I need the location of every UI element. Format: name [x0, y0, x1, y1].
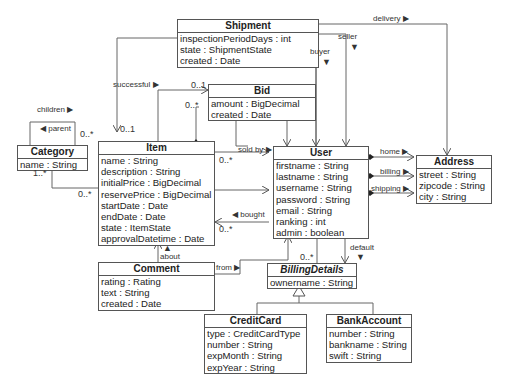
class-name: Bid [209, 85, 315, 98]
attribute: approvalDatetime : Date [99, 233, 214, 244]
mult-bid-item: 0..* [185, 100, 199, 110]
class-name: BankAccount [327, 315, 411, 328]
class-name: User [274, 147, 368, 160]
mult-bid-successful: 0..1 [191, 80, 206, 90]
mult-shipment-item: 0..1 [120, 124, 135, 134]
attribute: bankname : String [327, 339, 411, 350]
class-bid[interactable]: Bid amount : BigDecimal created : Date [208, 84, 316, 121]
attribute: lastname : String [274, 171, 368, 182]
label-billing: billing ▶ [380, 167, 409, 176]
mult-category-item-cat: 1..* [33, 168, 47, 178]
attribute: expMonth : String [205, 350, 306, 361]
attribute: name : String [99, 155, 214, 166]
label-default: default [350, 243, 374, 252]
class-item[interactable]: Item name : String description : String … [98, 141, 215, 246]
label-from: from ▶ [216, 263, 240, 272]
class-billingdetails[interactable]: BillingDetails ownername : String [267, 263, 357, 289]
attribute: expYear : String [205, 362, 306, 373]
attribute: name : String [18, 159, 87, 170]
mult-category-children: 0..* [80, 129, 94, 139]
class-category[interactable]: Category name : String [17, 145, 88, 171]
class-bankaccount[interactable]: BankAccount number : String bankname : S… [326, 314, 412, 363]
attribute: endDate : Date [99, 211, 214, 222]
attribute: description : String [99, 166, 214, 177]
default-arrow-icon: ▼ [356, 252, 365, 262]
attribute: text : String [99, 287, 214, 298]
attribute: created : Date [99, 298, 214, 309]
mult-category-item-item: 0..* [78, 189, 92, 199]
attribute: startDate : Date [99, 200, 214, 211]
mult-user-billing: 0..* [300, 252, 314, 262]
label-delivery: delivery ▶ [373, 14, 409, 23]
attribute: ownername : String [268, 277, 356, 288]
class-name: Comment [99, 263, 214, 276]
attribute: password : String [274, 194, 368, 205]
attribute: ranking : int [274, 216, 368, 227]
label-home: home ▶ [380, 147, 408, 156]
attribute: rating : Rating [99, 276, 214, 287]
attribute: amount : BigDecimal [209, 98, 315, 109]
attribute: admin : boolean [274, 227, 368, 238]
label-successful: successful ▶ [113, 80, 159, 89]
label-sold-by: sold by ▶ [238, 145, 272, 154]
attribute: username : String [274, 182, 368, 193]
class-name: Category [18, 146, 87, 159]
buyer-arrow-icon: ▼ [322, 57, 331, 67]
attribute: created : Date [209, 109, 315, 120]
label-bought: ◀ bought [232, 210, 265, 219]
class-name: BillingDetails [268, 264, 356, 277]
attribute: email : String [274, 205, 368, 216]
class-comment[interactable]: Comment rating : Rating text : String cr… [98, 262, 215, 311]
class-name: Address [417, 156, 491, 169]
label-seller: seller [338, 32, 357, 41]
class-shipment[interactable]: Shipment inspectionPeriodDays : int stat… [177, 19, 319, 68]
class-name: CreditCard [205, 315, 306, 328]
class-name: Item [99, 142, 214, 155]
attribute: inspectionPeriodDays : int [178, 33, 318, 44]
seller-arrow-icon: ▼ [350, 42, 359, 52]
attribute: created : Date [178, 55, 318, 66]
label-shipping: shipping ▶ [371, 184, 409, 193]
label-buyer: buyer [310, 47, 330, 56]
label-parent: ◀ parent [40, 124, 71, 133]
attribute: state : ItemState [99, 222, 214, 233]
class-address[interactable]: Address street : String zipcode : String… [416, 155, 492, 204]
mult-item-bought: 0..* [219, 224, 233, 234]
attribute: state : ShipmentState [178, 44, 318, 55]
attribute: type : CreditCardType [205, 328, 306, 339]
mult-item-soldby: 0..* [219, 155, 233, 165]
class-name: Shipment [178, 20, 318, 33]
attribute: initialPrice : BigDecimal [99, 177, 214, 188]
attribute: zipcode : String [417, 180, 491, 191]
attribute: city : String [417, 191, 491, 202]
attribute: firstname : String [274, 160, 368, 171]
class-user[interactable]: User firstname : String lastname : Strin… [273, 146, 369, 239]
attribute: swift : String [327, 350, 411, 361]
attribute: street : String [417, 169, 491, 180]
class-creditcard[interactable]: CreditCard type : CreditCardType number … [204, 314, 307, 374]
attribute: number : String [327, 328, 411, 339]
label-children: children ▶ [37, 105, 73, 114]
label-about: about [160, 252, 180, 261]
attribute: reservePrice : BigDecimal [99, 189, 214, 200]
attribute: number : String [205, 339, 306, 350]
